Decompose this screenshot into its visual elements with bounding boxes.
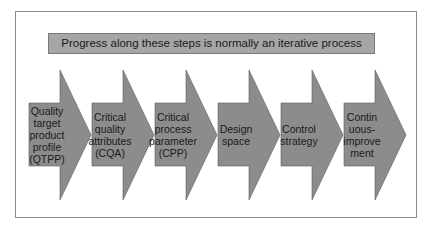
- step-label-line: profile: [33, 141, 62, 153]
- step-label-line: quality: [95, 123, 125, 135]
- step-label-line: target: [34, 117, 61, 129]
- step-label-4: Designspace: [219, 103, 253, 166]
- step-label-5: Controlstrategy: [282, 103, 316, 166]
- step-label-line: strategy: [280, 135, 317, 147]
- step-label-line: parameter: [149, 135, 197, 147]
- step-label-6: Continuous-improvement: [345, 103, 379, 166]
- step-label-line: attributes: [88, 135, 131, 147]
- step-label-line: Critical: [157, 111, 189, 123]
- step-label-line: improve: [343, 135, 380, 147]
- step-label-line: product: [29, 129, 64, 141]
- step-label-line: (QTPP): [29, 153, 65, 165]
- step-label-line: Critical: [94, 111, 126, 123]
- step-label-line: space: [222, 135, 250, 147]
- step-label-line: Quality: [31, 105, 64, 117]
- step-label-line: uous-: [349, 123, 375, 135]
- step-label-line: ment: [350, 147, 373, 159]
- step-label-line: Control: [282, 123, 316, 135]
- step-label-3: Criticalprocessparameter(CPP): [156, 103, 190, 166]
- step-label-line: Contin: [347, 111, 377, 123]
- step-label-line: (CPP): [159, 147, 188, 159]
- step-label-1: Qualitytargetproductprofile(QTPP): [30, 103, 64, 166]
- step-label-line: process: [155, 123, 192, 135]
- step-label-2: Criticalqualityattributes(CQA): [93, 103, 127, 166]
- step-label-line: Design: [220, 123, 253, 135]
- step-label-line: (CQA): [95, 147, 125, 159]
